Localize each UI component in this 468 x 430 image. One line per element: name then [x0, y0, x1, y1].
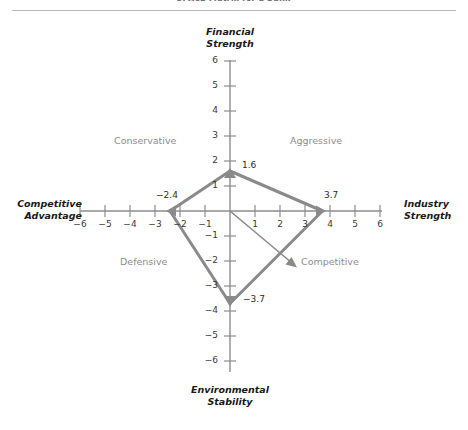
x-tick-label: 5 [345, 219, 365, 229]
x-tick-label: 1 [245, 219, 265, 229]
axis-title-line-2: Stability [207, 396, 252, 407]
axis-title-line-1: Environmental [191, 384, 269, 395]
quadrant-label-aggressive: Aggressive [290, 135, 342, 146]
space-polygon [170, 171, 323, 304]
point-label-industry-strength: 3.7 [324, 190, 338, 200]
x-tick-label: −3 [145, 219, 165, 229]
point-label-financial-strength: 1.6 [242, 160, 256, 170]
y-tick-label: −3 [196, 280, 218, 290]
x-tick-label: 4 [320, 219, 340, 229]
x-tick-label: −2 [170, 219, 190, 229]
y-tick-label: −5 [196, 330, 218, 340]
x-tick-label: −4 [120, 219, 140, 229]
x-tick-label: 3 [295, 219, 315, 229]
axis-title-line-1: Industry [404, 198, 449, 209]
y-tick-label: 3 [196, 130, 218, 140]
arrowhead-environmental-stability [224, 296, 236, 307]
y-tick-label: 6 [196, 55, 218, 65]
y-tick-label: 5 [196, 80, 218, 90]
y-tick-label: 2 [196, 155, 218, 165]
axis-lines [80, 60, 382, 372]
axis-title-line-1: Competitive [17, 198, 82, 209]
arrowhead-industry-strength [316, 206, 326, 217]
y-tick-label: 4 [196, 105, 218, 115]
axis-title-line-2: Strength [404, 210, 451, 221]
y-tick-label: −1 [196, 230, 218, 240]
x-tick-label: −1 [195, 219, 215, 229]
y-tick-label: −4 [196, 305, 218, 315]
point-label-environmental-stability: −3.7 [243, 294, 265, 304]
point-label-competitive-advantage: −2.4 [156, 190, 178, 200]
x-tick-label: −5 [95, 219, 115, 229]
x-tick-label: 2 [270, 219, 290, 229]
axis-title-financial-strength: Financial Strength [180, 26, 280, 50]
axis-title-line-1: Financial [206, 26, 254, 37]
y-tick-label: −2 [196, 255, 218, 265]
axis-title-line-2: Strength [206, 38, 253, 49]
x-tick-label: −6 [70, 219, 90, 229]
quadrant-label-conservative: Conservative [114, 135, 176, 146]
axis-title-industry-strength: Industry Strength [404, 198, 468, 222]
x-tick-label: 6 [370, 219, 390, 229]
y-tick-label: 1 [196, 180, 218, 190]
y-tick-label: −6 [196, 355, 218, 365]
space-matrix-figure: SPACE Matrix for a Bank [0, 0, 468, 430]
axis-title-environmental-stability: Environmental Stability [168, 384, 292, 408]
quadrant-label-defensive: Defensive [120, 256, 167, 267]
quadrant-label-competitive: Competitive [301, 256, 359, 267]
